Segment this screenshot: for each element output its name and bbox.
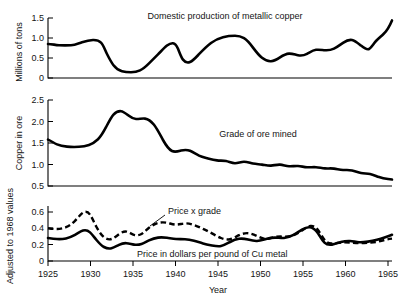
middle-axis-lines (48, 100, 392, 186)
top-y-tick-0: 0 (39, 73, 44, 83)
middle-y-tick-1: 1.0 (31, 160, 44, 170)
middle-y-axis-title: Copper in ore (14, 116, 24, 171)
panel-top: Millions of tons 1.5 1.0 0.5 0 Domestic … (14, 11, 392, 83)
bottom-y-tick-1: 0.2 (31, 240, 44, 250)
x-tick-1955: 1955 (293, 269, 313, 279)
x-tick-1925: 1925 (38, 269, 58, 279)
price-x-grade-label: Price x grade (168, 206, 221, 216)
bottom-x-ticks (48, 261, 388, 266)
middle-y-tick-3: 2.0 (31, 117, 44, 127)
figure-canvas: Millions of tons 1.5 1.0 0.5 0 Domestic … (0, 0, 403, 301)
top-y-axis-title: Millions of tons (14, 22, 24, 82)
bottom-y-axis-title: Adjusted to 1968 values (5, 187, 15, 284)
middle-y-tick-4: 2.5 (31, 95, 44, 105)
x-tick-1960: 1960 (335, 269, 355, 279)
top-panel-title: Domestic production of metallic copper (147, 11, 302, 21)
x-tick-1965: 1965 (378, 269, 398, 279)
x-tick-1950: 1950 (250, 269, 270, 279)
production-curve (48, 20, 392, 72)
top-y-tick-3: 1.5 (31, 13, 44, 23)
top-y-ticks (48, 18, 53, 78)
bottom-y-tick-2: 0.4 (31, 223, 44, 233)
x-tick-1945: 1945 (208, 269, 228, 279)
x-tick-1930: 1930 (80, 269, 100, 279)
bottom-y-ticks (48, 212, 53, 261)
middle-panel-title: Grade of ore mined (219, 129, 297, 139)
middle-y-tick-0: 0.5 (31, 181, 44, 191)
price-times-grade-curve (48, 212, 392, 244)
top-y-tick-1: 0.5 (31, 53, 44, 63)
price-per-pound-label: Price in dollars per pound of Cu metal (137, 249, 288, 259)
panel-bottom: Adjusted to 1968 values 0.6 0.4 0.2 0 (5, 187, 398, 295)
top-axis-lines (48, 18, 392, 78)
ore-grade-curve (48, 111, 392, 179)
top-y-tick-2: 1.0 (31, 33, 44, 43)
copper-statistics-figure: Millions of tons 1.5 1.0 0.5 0 Domestic … (0, 0, 403, 301)
x-tick-1940: 1940 (165, 269, 185, 279)
middle-y-tick-2: 1.5 (31, 138, 44, 148)
x-axis-title: Year (209, 285, 227, 295)
panel-middle: Copper in ore 2.5 2.0 1.5 1.0 0.5 Grade … (14, 95, 392, 191)
bottom-y-tick-0: 0 (39, 256, 44, 266)
bottom-y-tick-3: 0.6 (31, 207, 44, 217)
x-tick-1935: 1935 (123, 269, 143, 279)
